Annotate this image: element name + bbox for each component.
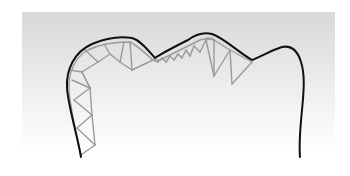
truss-member bbox=[120, 42, 124, 62]
truss-member bbox=[90, 88, 92, 115]
truss-member bbox=[82, 62, 98, 72]
truss-member bbox=[194, 46, 200, 52]
truss-member bbox=[74, 100, 92, 115]
truss-member bbox=[232, 62, 252, 84]
truss-member bbox=[77, 115, 92, 128]
truss-member bbox=[206, 40, 214, 76]
truss-member bbox=[178, 54, 182, 58]
truss-member bbox=[200, 40, 206, 52]
truss-member bbox=[98, 54, 110, 62]
truss-member bbox=[74, 88, 90, 100]
truss-member bbox=[104, 44, 110, 54]
truss-member bbox=[77, 128, 95, 145]
truss-member bbox=[214, 40, 230, 50]
truss-member bbox=[174, 54, 178, 60]
truss-member bbox=[186, 50, 190, 56]
truss-member bbox=[85, 50, 98, 62]
truss-member bbox=[182, 50, 186, 58]
truss-member bbox=[120, 62, 132, 70]
truss-member bbox=[230, 50, 232, 84]
truss-member bbox=[132, 60, 153, 70]
truss-member bbox=[110, 54, 120, 62]
diagram-canvas bbox=[0, 0, 350, 176]
truss-member bbox=[81, 145, 95, 155]
truss-member bbox=[130, 42, 132, 70]
truss-member bbox=[190, 46, 194, 56]
truss-member bbox=[170, 56, 174, 60]
truss-member bbox=[92, 115, 95, 145]
profile-diagram bbox=[0, 0, 350, 176]
truss-member bbox=[214, 50, 230, 76]
